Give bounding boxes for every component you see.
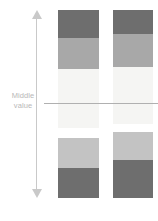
bar-segment-dark-gray-top <box>113 10 153 34</box>
middle-value-label-line2: value <box>0 101 46 111</box>
right-column <box>113 0 153 221</box>
figure-canvas: Middle value <box>0 0 158 221</box>
bar-segment-dark-gray-bottom <box>113 160 153 198</box>
bar-segment-dark-gray-bottom <box>58 168 99 198</box>
down-arrow-icon <box>32 189 42 198</box>
bar-segment-near-white <box>58 69 99 128</box>
bar-segment-light-gray <box>113 132 153 160</box>
bar-segment-near-white <box>113 67 153 124</box>
bar-segment-dark-gray-top <box>58 10 99 38</box>
middle-value-label: Middle value <box>0 91 46 110</box>
up-arrow-icon <box>32 10 42 19</box>
middle-value-reference-line <box>44 103 158 104</box>
bar-segment-medium-gray <box>58 38 99 69</box>
middle-value-label-line1: Middle <box>0 91 46 101</box>
bar-segment-medium-gray <box>113 34 153 67</box>
bar-segment-light-gray <box>58 138 99 168</box>
left-column <box>58 0 99 221</box>
